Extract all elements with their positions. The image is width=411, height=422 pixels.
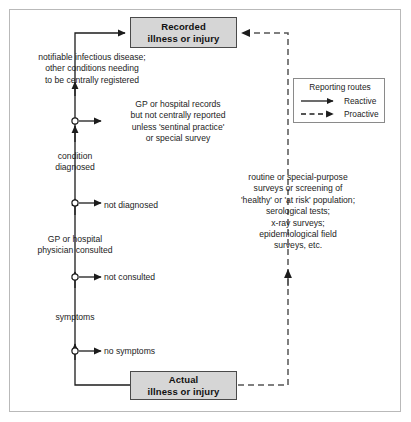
node-recorded-illness[interactable]: Recorded illness or injury xyxy=(130,17,237,48)
node-actual-illness[interactable]: Actual illness or injury xyxy=(130,371,237,400)
node-recorded-line1: Recorded xyxy=(161,21,206,33)
label-gp-physician-consulted: GP or hospital physician consulted xyxy=(18,234,132,257)
legend-item-proactive[interactable]: Proactive xyxy=(300,108,382,121)
node-actual-line1: Actual xyxy=(169,374,199,386)
legend-title: Reporting routes xyxy=(294,82,386,92)
solid-arrow-icon xyxy=(300,95,342,107)
diagram-canvas: Recorded illness or injury Actual illnes… xyxy=(0,0,411,422)
label-condition-diagnosed: condition diagnosed xyxy=(33,151,117,174)
legend-label-proactive: Proactive xyxy=(344,108,379,120)
legend-item-reactive[interactable]: Reactive xyxy=(300,95,382,108)
label-no-symptoms: no symptoms xyxy=(104,346,194,357)
legend-panel: Reporting routes Reactive xyxy=(293,78,385,123)
label-proactive-surveys: routine or special-purpose surveys or sc… xyxy=(213,172,383,252)
label-not-consulted: not consulted xyxy=(104,272,194,283)
label-notifiable-disease: notifiable infectious disease; other con… xyxy=(12,52,172,86)
legend-label-reactive: Reactive xyxy=(344,95,376,107)
label-symptoms: symptoms xyxy=(36,312,114,323)
dashed-arrow-icon xyxy=(300,108,342,120)
label-gp-hospital-records: GP or hospital records but not centrally… xyxy=(108,99,248,145)
label-not-diagnosed: not diagnosed xyxy=(104,200,194,211)
node-actual-line2: illness or injury xyxy=(148,386,220,398)
node-recorded-line2: illness or injury xyxy=(148,33,220,45)
